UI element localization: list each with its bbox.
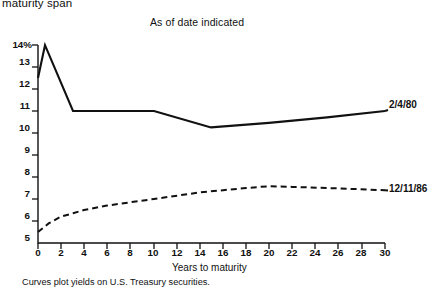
x-axis-title: Years to maturity [172, 262, 247, 273]
axis-lines [38, 45, 385, 243]
series-label-2-4-80: 2/4/80 [389, 99, 417, 110]
series-solid-leader [385, 110, 388, 111]
x-tick-marks [38, 243, 385, 249]
yield-curve-figure: maturity span As of date indicated 14% 1… [0, 0, 441, 292]
y-tick-marks [32, 45, 38, 221]
series-line-dashed [38, 186, 385, 232]
series-label-12-11-86: 12/11/86 [389, 183, 427, 194]
series-line-solid [38, 45, 385, 127]
plot-area [0, 0, 441, 292]
chart-footnote: Curves plot yields on U.S. Treasury secu… [22, 277, 210, 287]
